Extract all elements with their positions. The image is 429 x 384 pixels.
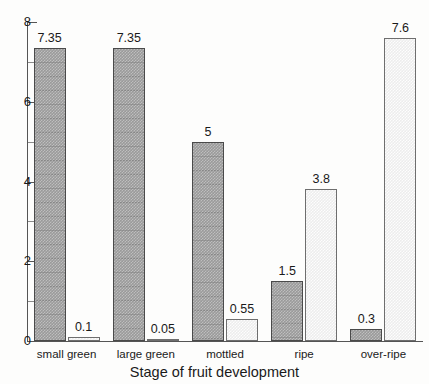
bar-value-label-large-green-dark: 7.35 [105,32,153,45]
bar-large-green-dark [113,48,145,341]
x-axis-line [27,341,423,342]
x-category-label-small-green: small green [27,348,106,361]
bar-value-label-mottled-dark: 5 [184,126,232,139]
bar-small-green-light [68,337,100,341]
x-category-label-large-green: large green [106,348,185,361]
x-category-label-ripe: ripe [265,348,344,361]
bar-over-ripe-light [384,38,416,341]
x-category-label-mottled: mottled [185,348,264,361]
plot-area: 7.350.17.350.0550.551.53.80.37.6 [27,22,423,341]
bar-chart-figure: 02468 7.350.17.350.0550.551.53.80.37.6 s… [0,0,429,384]
bar-over-ripe-dark [350,329,382,341]
bar-value-label-ripe-light: 3.8 [297,173,345,186]
x-axis-title: Stage of fruit development [0,364,429,380]
bar-value-label-over-ripe-light: 7.6 [376,22,424,35]
bar-value-label-mottled-light: 0.55 [218,303,266,316]
bar-ripe-light [305,189,337,341]
bar-value-label-small-green-dark: 7.35 [26,32,74,45]
bar-large-green-light [147,339,179,341]
bar-mottled-light [226,319,258,341]
bar-value-label-ripe-dark: 1.5 [263,265,311,278]
bar-value-label-small-green-light: 0.1 [60,321,108,334]
bar-small-green-dark [34,48,66,341]
bar-value-label-over-ripe-dark: 0.3 [342,313,390,326]
x-category-label-over-ripe: over-ripe [344,348,423,361]
bar-ripe-dark [271,281,303,341]
bar-value-label-large-green-light: 0.05 [139,323,187,336]
